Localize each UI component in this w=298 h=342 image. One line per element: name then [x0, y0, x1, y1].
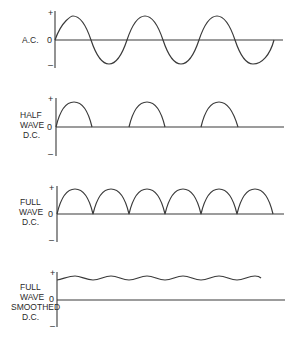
panel-label-ac: A.C.: [22, 35, 39, 45]
panel-label-full-wave-line1: FULL: [20, 197, 41, 207]
panel-label-smoothed-line4: D.C.: [22, 312, 39, 322]
panel-label-half-wave-line1: HALF: [20, 110, 42, 120]
panel-smoothed: FULL WAVE SMOOTHED D.C. + 0 –: [11, 268, 285, 331]
panel-label-smoothed-line1: FULL: [20, 282, 41, 292]
tick-plus: +: [50, 268, 55, 278]
smoothed-ripple-wave: [57, 276, 261, 280]
tick-minus: –: [48, 60, 53, 70]
tick-minus: –: [48, 149, 53, 159]
full-wave-pulses: [57, 189, 273, 214]
tick-minus: –: [49, 235, 54, 245]
tick-plus: +: [49, 183, 54, 193]
panel-label-full-wave-line3: D.C.: [22, 217, 39, 227]
panel-label-half-wave-line3: D.C.: [23, 130, 40, 140]
tick-zero: 0: [47, 122, 52, 132]
panel-label-full-wave-line2: WAVE: [19, 207, 43, 217]
tick-zero: 0: [49, 294, 54, 304]
panel-ac: A.C. + 0 –: [22, 8, 283, 70]
panel-half-wave: HALF WAVE D.C. + 0 –: [20, 94, 284, 159]
tick-zero: 0: [47, 35, 52, 45]
tick-zero: 0: [48, 209, 53, 219]
tick-minus: –: [50, 321, 55, 331]
panel-label-half-wave-line2: WAVE: [20, 120, 44, 130]
panel-full-wave: FULL WAVE D.C. + 0 –: [19, 183, 284, 245]
half-wave-pulses: [56, 102, 238, 127]
tick-plus: +: [48, 8, 53, 18]
rectifier-waveform-diagram: A.C. + 0 – HALF WAVE D.C. + 0 – FULL WAV…: [0, 0, 298, 342]
tick-plus: +: [48, 94, 53, 104]
panel-label-smoothed-line2: WAVE: [20, 292, 44, 302]
